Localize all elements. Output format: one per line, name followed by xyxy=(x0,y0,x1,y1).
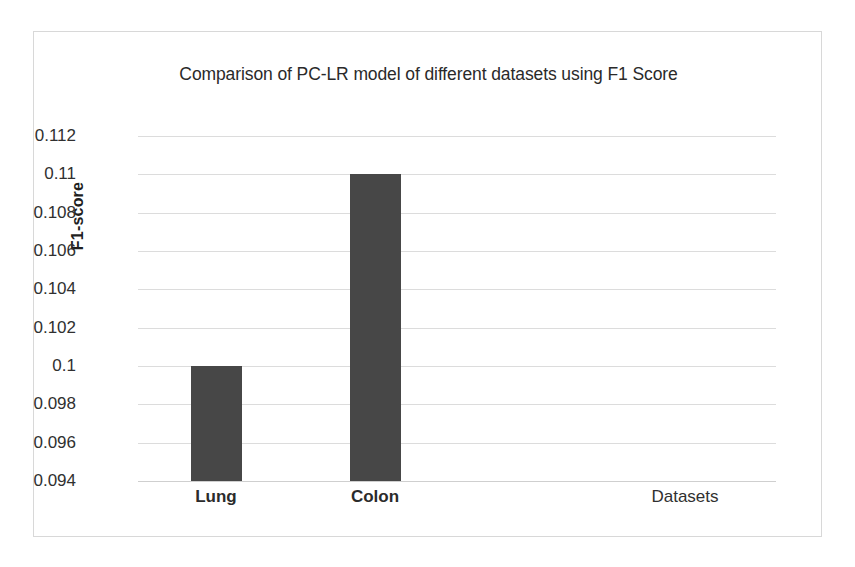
gridline xyxy=(138,251,776,252)
y-axis-tick-label: 0.112 xyxy=(0,127,76,144)
y-axis-tick-label: 0.098 xyxy=(0,395,76,412)
y-axis-tick-label: 0.11 xyxy=(0,165,76,182)
bar-colon[interactable] xyxy=(350,174,401,481)
y-axis-tick-label: 0.104 xyxy=(0,280,76,297)
y-axis-tick-label: 0.108 xyxy=(0,204,76,221)
gridline xyxy=(138,481,776,482)
plot-area xyxy=(138,136,776,481)
gridline xyxy=(138,174,776,175)
chart-frame: Comparison of PC-LR model of different d… xyxy=(33,31,822,537)
gridline xyxy=(138,136,776,137)
y-axis-tick-label: 0.096 xyxy=(0,434,76,451)
y-axis-tick-label: 0.106 xyxy=(0,242,76,259)
bar-lung[interactable] xyxy=(191,366,242,481)
gridline xyxy=(138,328,776,329)
y-axis-tick-label: 0.094 xyxy=(0,472,76,489)
gridline xyxy=(138,213,776,214)
x-axis-label-lung: Lung xyxy=(146,487,286,507)
x-axis-label-colon: Colon xyxy=(305,487,445,507)
gridline xyxy=(138,289,776,290)
chart-title: Comparison of PC-LR model of different d… xyxy=(34,64,823,85)
y-axis-tick-label: 0.1 xyxy=(0,357,76,374)
y-axis-tick-label: 0.102 xyxy=(0,319,76,336)
x-axis-title: Datasets xyxy=(594,487,776,507)
